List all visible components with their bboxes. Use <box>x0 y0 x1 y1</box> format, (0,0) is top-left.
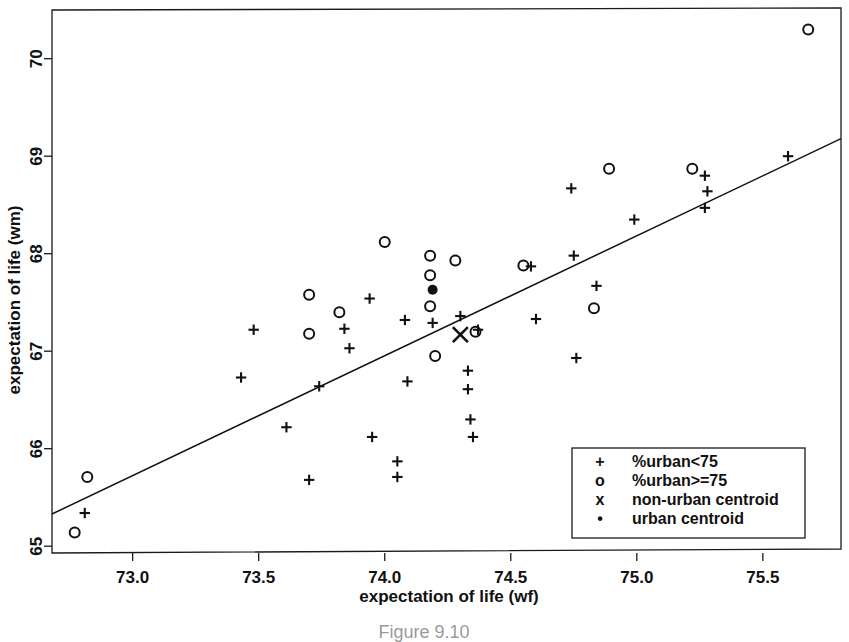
point-plus <box>281 422 291 432</box>
point-plus <box>700 203 710 213</box>
point-plus <box>702 186 712 196</box>
point-nonurban-centroid <box>453 327 468 342</box>
point-plus <box>629 214 639 224</box>
point-plus <box>591 281 601 291</box>
point-plus <box>566 183 576 193</box>
point-circle <box>425 251 435 261</box>
y-tick-label: 67 <box>27 342 46 361</box>
point-plus <box>344 343 354 353</box>
legend-symbol-1: o <box>595 472 605 489</box>
point-plus <box>339 324 349 334</box>
point-plus <box>463 384 473 394</box>
point-plus <box>427 318 437 328</box>
legend-symbol-0: + <box>595 453 604 470</box>
point-circle <box>604 164 614 174</box>
point-plus <box>364 293 374 303</box>
point-circle <box>304 329 314 339</box>
figure-caption: Figure 9.10 <box>378 622 469 642</box>
point-plus <box>455 311 465 321</box>
point-circle <box>70 528 80 538</box>
x-axis-label: expectation of life (wf) <box>359 587 538 606</box>
point-plus <box>571 353 581 363</box>
point-plus <box>463 365 473 375</box>
y-tick-label: 66 <box>27 439 46 458</box>
point-circle <box>803 24 813 34</box>
legend-label-2: non-urban centroid <box>632 491 779 508</box>
point-urban-centroid <box>428 285 438 295</box>
point-circle <box>82 472 92 482</box>
legend: +%urban<75o%urban>=75xnon-urban centroid… <box>572 448 805 538</box>
point-circle <box>450 256 460 266</box>
legend-symbol-3: • <box>597 510 603 527</box>
x-tick-label: 74.0 <box>368 568 401 587</box>
y-axis-label: expectation of life (wm) <box>5 206 24 395</box>
y-tick-label: 65 <box>27 537 46 556</box>
legend-label-1: %urban>=75 <box>632 472 727 489</box>
point-circle <box>334 307 344 317</box>
point-plus <box>392 456 402 466</box>
y-tick-label: 69 <box>27 147 46 166</box>
point-plus <box>314 381 324 391</box>
x-tick-label: 73.5 <box>242 568 275 587</box>
y-tick-label: 70 <box>27 49 46 68</box>
point-plus <box>700 170 710 180</box>
legend-label-3: urban centroid <box>632 510 744 527</box>
x-tick-label: 75.0 <box>620 568 653 587</box>
point-circle <box>380 237 390 247</box>
point-circle <box>430 351 440 361</box>
point-plus <box>783 151 793 161</box>
y-tick-label: 68 <box>27 244 46 263</box>
point-plus <box>248 325 258 335</box>
point-circle <box>304 290 314 300</box>
point-plus <box>236 372 246 382</box>
point-plus <box>80 508 90 518</box>
legend-symbol-2: x <box>596 491 605 508</box>
legend-label-0: %urban<75 <box>632 453 718 470</box>
figure-container: 73.073.574.074.575.075.5656667686970 +%u… <box>0 0 849 642</box>
point-plus <box>402 376 412 386</box>
point-plus <box>531 314 541 324</box>
point-plus <box>367 432 377 442</box>
point-plus <box>569 250 579 260</box>
point-circle <box>425 270 435 280</box>
point-circle <box>687 164 697 174</box>
x-tick-label: 74.5 <box>494 568 527 587</box>
scatter-plot: 73.073.574.074.575.075.5656667686970 +%u… <box>0 0 849 642</box>
point-plus <box>304 475 314 485</box>
point-plus <box>392 472 402 482</box>
point-plus <box>468 432 478 442</box>
point-circle <box>589 303 599 313</box>
point-plus <box>400 315 410 325</box>
x-tick-label: 75.5 <box>746 568 779 587</box>
point-plus <box>465 414 475 424</box>
point-circle <box>425 301 435 311</box>
x-tick-label: 73.0 <box>116 568 149 587</box>
